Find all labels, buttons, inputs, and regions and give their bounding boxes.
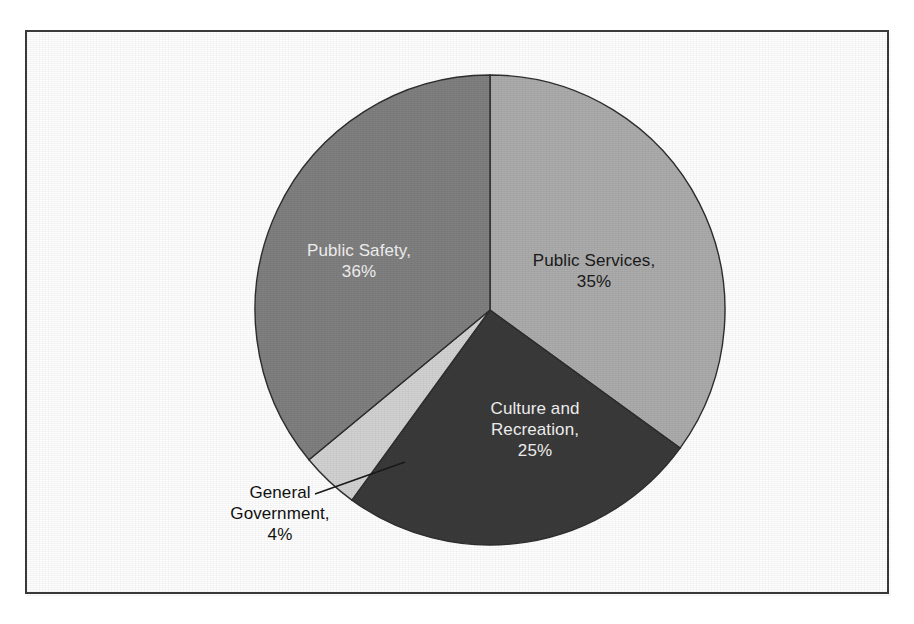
pie-chart-svg [27, 32, 891, 596]
pie-plot-area: Public Services, 35% Public Safety, 36% … [27, 32, 891, 596]
chart-frame: Public Services, 35% Public Safety, 36% … [25, 30, 889, 594]
